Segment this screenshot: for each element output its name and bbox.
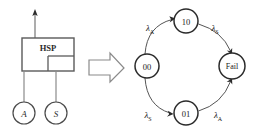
block-arrow-right (89, 53, 124, 82)
rate-label-10-to-fail: λS (210, 23, 218, 35)
hsp-block-label: HSP (40, 43, 57, 53)
transition-00-to-01 (145, 78, 174, 117)
state-node-01: 01 (174, 101, 198, 125)
rate-label-00-to-10: λA (145, 23, 155, 35)
figure-container: HSP A S (0, 0, 257, 133)
rate-subscript: A (218, 116, 223, 122)
rate-subscript: S (148, 116, 151, 122)
transition-00-to-10 (145, 16, 176, 54)
rate-subscript: S (215, 29, 218, 35)
rate-label-00-to-01: λS (143, 110, 151, 122)
state-label-00: 00 (143, 62, 152, 72)
state-label-fail: Fail (226, 62, 239, 71)
transition-01-to-fail (199, 78, 233, 111)
rate-subscript: A (150, 29, 155, 35)
component-label-s: S (54, 109, 59, 119)
state-label-10: 10 (182, 17, 191, 27)
upward-output-arrow (32, 9, 37, 38)
figure-svg: HSP A S (0, 0, 257, 133)
state-node-10: 10 (174, 9, 198, 33)
state-node-00: 00 (135, 54, 159, 78)
state-label-01: 01 (182, 109, 191, 119)
markov-state-diagram: 00 10 01 Fail λA λS (135, 9, 245, 125)
rate-label-01-to-fail: λA (213, 110, 223, 122)
component-label-a: A (20, 109, 27, 119)
left-system-diagram: HSP A S (13, 9, 74, 124)
state-node-fail: Fail (219, 53, 245, 79)
